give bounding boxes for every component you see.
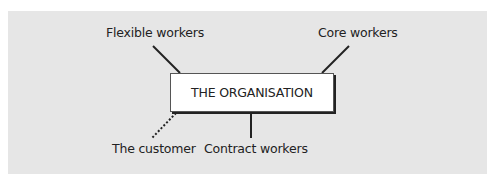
node-flexible-workers: Flexible workers <box>106 25 204 40</box>
node-core-workers: Core workers <box>318 25 398 40</box>
node-organisation: THE ORGANISATION <box>170 73 334 112</box>
connector-customer <box>152 113 176 138</box>
node-customer: The customer <box>112 141 196 156</box>
connector-core <box>322 46 349 73</box>
organisation-label: THE ORGANISATION <box>191 85 313 100</box>
connector-flexible <box>153 46 180 73</box>
node-contract-workers: Contract workers <box>204 141 308 156</box>
